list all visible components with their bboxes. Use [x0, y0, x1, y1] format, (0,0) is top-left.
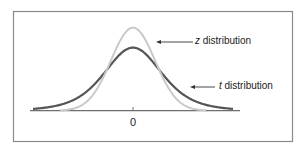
figure-frame [14, 12, 293, 142]
t-distribution-label: t distribution [219, 80, 273, 91]
distribution-figure [0, 0, 307, 150]
x-tick-label-zero: 0 [130, 116, 136, 128]
z-distribution-label: z distribution [195, 35, 251, 46]
t-label-text: distribution [222, 80, 273, 91]
z-label-text: distribution [200, 35, 251, 46]
